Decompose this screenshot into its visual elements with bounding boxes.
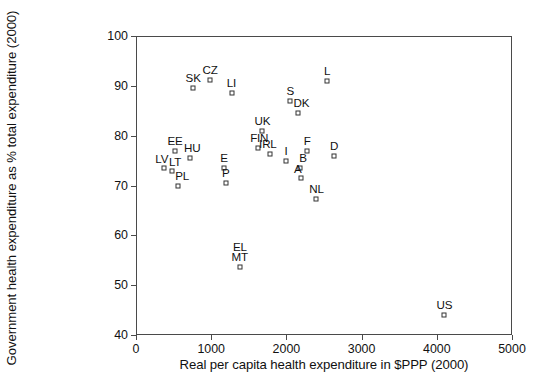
data-point-label: P bbox=[222, 166, 230, 179]
data-point-marker bbox=[161, 165, 166, 170]
data-point-label: LI bbox=[227, 76, 236, 89]
x-tick-label: 0 bbox=[133, 342, 140, 356]
y-tick-label: 70 bbox=[114, 179, 128, 193]
data-point-label: F bbox=[304, 134, 311, 147]
plot-data-area: SKCZLILSDKUKEEHUFINIRLFDLVLTEIBPLPANLELM… bbox=[136, 36, 512, 335]
x-tick-label: 3000 bbox=[348, 342, 376, 356]
data-point-label: PL bbox=[175, 169, 189, 182]
data-point-label: S bbox=[286, 84, 294, 97]
data-point-label: LV bbox=[155, 152, 168, 165]
data-point-label: US bbox=[436, 298, 452, 311]
x-tick-mark bbox=[362, 335, 363, 340]
y-axis-title: Government health expenditure as % total… bbox=[0, 0, 22, 376]
data-point-marker bbox=[298, 176, 303, 181]
data-point-marker bbox=[173, 148, 178, 153]
data-point-marker bbox=[229, 91, 234, 96]
x-tick-label: 2000 bbox=[273, 342, 301, 356]
data-point-label: SK bbox=[186, 71, 201, 84]
data-point-marker bbox=[170, 169, 175, 174]
data-point-marker bbox=[191, 86, 196, 91]
data-point-label: LT bbox=[169, 155, 181, 168]
data-point-marker bbox=[237, 265, 242, 270]
y-tick-label: 60 bbox=[114, 228, 128, 242]
scatter-chart-figure: Government health expenditure as % total… bbox=[0, 0, 544, 376]
data-point-marker bbox=[208, 77, 213, 82]
data-point-marker bbox=[442, 313, 447, 318]
data-point-marker bbox=[314, 197, 319, 202]
x-tick-mark bbox=[211, 335, 212, 340]
data-point-marker bbox=[288, 98, 293, 103]
data-point-marker bbox=[176, 183, 181, 188]
x-tick-mark bbox=[136, 335, 137, 340]
y-tick-label: 90 bbox=[114, 79, 128, 93]
data-point-label: A bbox=[294, 162, 302, 175]
data-point-label: D bbox=[330, 139, 338, 152]
data-point-marker bbox=[284, 158, 289, 163]
x-axis-ticks: 010002000300040005000 bbox=[136, 335, 512, 359]
x-tick-mark bbox=[286, 335, 287, 340]
y-tick-label: 50 bbox=[114, 278, 128, 292]
x-tick-mark bbox=[512, 335, 513, 340]
data-point-label: I bbox=[285, 144, 288, 157]
x-tick-label: 4000 bbox=[423, 342, 451, 356]
data-point-marker bbox=[188, 156, 193, 161]
data-point-label: UK bbox=[254, 114, 270, 127]
y-tick-label: 40 bbox=[114, 328, 128, 342]
data-point-marker bbox=[325, 78, 330, 83]
x-tick-label: 5000 bbox=[498, 342, 526, 356]
data-point-label: E bbox=[220, 151, 228, 164]
data-point-label: L bbox=[324, 64, 330, 77]
data-point-label: EE bbox=[168, 134, 183, 147]
data-point-marker bbox=[223, 181, 228, 186]
y-tick-label: 100 bbox=[107, 29, 128, 43]
data-point-label: MT bbox=[232, 250, 248, 263]
x-tick-mark bbox=[437, 335, 438, 340]
data-point-label: IRL bbox=[259, 137, 276, 150]
data-point-label: CZ bbox=[203, 63, 218, 76]
y-tick-label: 80 bbox=[114, 129, 128, 143]
data-point-label: NL bbox=[309, 182, 323, 195]
data-point-label: DK bbox=[294, 96, 310, 109]
data-point-marker bbox=[267, 151, 272, 156]
x-axis-title: Real per capita health expenditure in $P… bbox=[136, 357, 512, 372]
x-tick-label: 1000 bbox=[197, 342, 225, 356]
data-point-marker bbox=[332, 153, 337, 158]
data-point-marker bbox=[296, 111, 301, 116]
data-point-label: HU bbox=[184, 141, 200, 154]
